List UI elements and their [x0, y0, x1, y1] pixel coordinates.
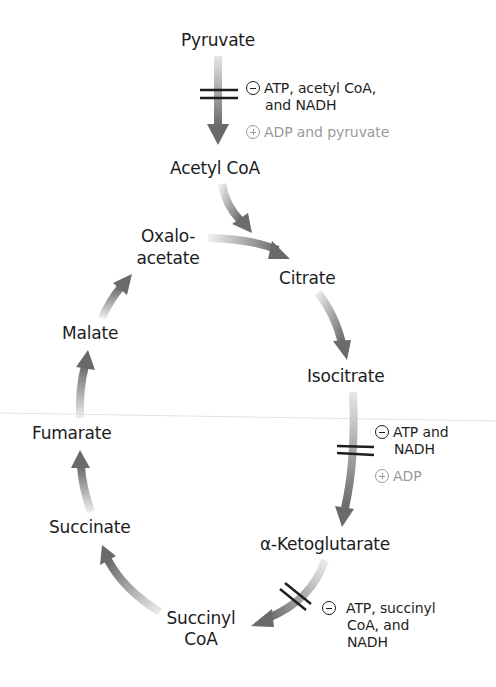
- idh-inhibitors: ATP and NADH: [375, 424, 449, 458]
- citric-acid-cycle-diagram: Pyruvate Acetyl CoA Oxalo- acetate Citra…: [0, 0, 496, 687]
- pdh-activators: ADP and pyruvate: [246, 124, 389, 141]
- akgdh-inhibitors-line1: ATP, succinyl: [346, 600, 436, 616]
- pdh-inhibitors-line1: ATP, acetyl CoA,: [264, 80, 376, 96]
- label-succinate: Succinate: [49, 517, 131, 537]
- arrow-pyruvate-to-acetyl-coa: [207, 56, 229, 145]
- label-oxaloacetate-line1: Oxalo-: [132, 226, 204, 246]
- label-citrate: Citrate: [279, 268, 335, 288]
- plus-circle-icon: [375, 469, 389, 483]
- minus-circle-icon: [375, 425, 389, 439]
- label-acetyl-coa: Acetyl CoA: [170, 158, 260, 178]
- arrow-oxaloacetate-to-citrate: [208, 238, 290, 259]
- label-alpha-ketoglutarate: α-Ketoglutarate: [260, 534, 390, 554]
- arrow-succinate-to-fumarate: [71, 450, 91, 512]
- arrow-fumarate-to-malate: [76, 350, 95, 418]
- plus-circle-icon: [246, 125, 260, 139]
- label-oxaloacetate: Oxalo- acetate: [132, 226, 204, 268]
- idh-inhibitors-line1: ATP and: [393, 424, 449, 440]
- arrow-malate-to-oxaloacetate: [102, 274, 132, 318]
- label-isocitrate: Isocitrate: [307, 366, 385, 386]
- idh-activators-text: ADP: [393, 468, 422, 484]
- pdh-inhibitors: ATP, acetyl CoA, and NADH: [246, 80, 376, 114]
- akgdh-inhibitors-line3: NADH: [322, 634, 436, 651]
- label-fumarate: Fumarate: [32, 423, 112, 443]
- label-malate: Malate: [62, 323, 118, 343]
- arrow-isocitrate-to-alpha-ketoglutarate: [335, 392, 354, 527]
- scan-line: [0, 413, 496, 421]
- idh-activators: ADP: [375, 468, 422, 485]
- pdh-activators-text: ADP and pyruvate: [264, 124, 389, 140]
- minus-circle-icon: [322, 601, 336, 615]
- label-succinyl-coa-line2: CoA: [162, 629, 240, 649]
- akgdh-inhibitors: ATP, succinyl CoA, and NADH: [322, 600, 436, 651]
- pdh-inhibitors-line2: and NADH: [246, 97, 376, 114]
- arrow-citrate-to-isocitrate: [318, 293, 351, 360]
- label-oxaloacetate-line2: acetate: [132, 248, 204, 268]
- minus-circle-icon: [246, 81, 260, 95]
- arrow-succinyl-coa-to-succinate: [100, 545, 160, 612]
- idh-inhibitors-line2: NADH: [375, 441, 449, 458]
- label-pyruvate: Pyruvate: [181, 30, 255, 50]
- akgdh-inhibitors-line2: CoA, and: [322, 617, 436, 634]
- arrow-acetyl-coa-in: [222, 184, 252, 233]
- label-succinyl-coa-line1: Succinyl: [162, 608, 240, 628]
- arrow-alpha-ketoglutarate-to-succinyl-coa: [251, 560, 325, 627]
- label-succinyl-coa: Succinyl CoA: [162, 608, 240, 649]
